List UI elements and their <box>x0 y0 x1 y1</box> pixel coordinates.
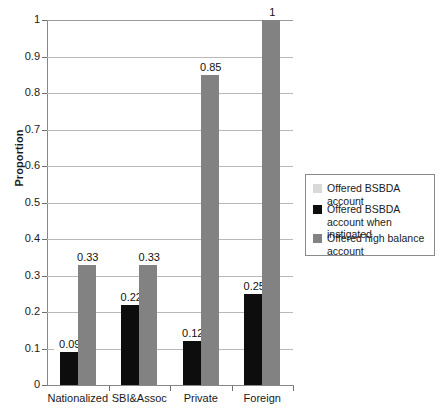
legend-item[interactable]: Offered high balance account <box>313 232 431 257</box>
gridline <box>47 57 293 58</box>
bar-value-label: 0.85 <box>195 61 227 73</box>
bar <box>183 341 201 385</box>
legend-swatch-icon <box>313 234 322 243</box>
bar-value-label: 0.33 <box>133 251 165 263</box>
x-axis-category-label: Private <box>170 392 232 405</box>
legend: Offered BSBDA accountOffered BSBDA accou… <box>305 174 435 256</box>
gridline <box>47 166 293 167</box>
bar <box>139 265 157 385</box>
y-axis-tick-label: 0.4 <box>6 233 40 244</box>
y-axis-tick-label: 0.1 <box>6 343 40 354</box>
bar-value-label: 1 <box>256 6 288 18</box>
y-axis-tick-label: 0.8 <box>6 87 40 98</box>
y-axis-tick-label: 0.9 <box>6 51 40 62</box>
plot-area: 0.090.330.220.330.120.850.251 <box>47 20 293 385</box>
y-axis-tick-label: 0.2 <box>6 306 40 317</box>
y-axis-tick-label: 0.7 <box>6 124 40 135</box>
gridline <box>47 130 293 131</box>
bar-chart: Proportion 00.10.20.30.40.50.60.70.80.91… <box>0 0 446 418</box>
x-axis-tick <box>109 386 110 391</box>
y-axis-tick-label: 0.5 <box>6 197 40 208</box>
x-axis-category-label: Nationalized <box>47 392 109 405</box>
legend-swatch-icon <box>313 184 322 193</box>
y-axis-tick-label: 1 <box>6 14 40 25</box>
x-axis-tick <box>170 386 171 391</box>
bar <box>60 352 78 385</box>
gridline <box>47 93 293 94</box>
legend-swatch-icon <box>313 205 322 214</box>
bar <box>244 294 262 385</box>
x-axis-tick <box>232 386 233 391</box>
gridline <box>47 20 293 21</box>
gridline <box>47 203 293 204</box>
bar <box>201 75 219 385</box>
x-axis-category-label: SBI&Assoc <box>109 392 171 405</box>
x-axis-category-label: Foreign <box>232 392 294 405</box>
legend-label: Offered high balance account <box>327 232 431 257</box>
y-axis-tick-label: 0.6 <box>6 160 40 171</box>
y-axis-tick-label: 0.3 <box>6 270 40 281</box>
bar-value-label: 0.33 <box>72 251 104 263</box>
x-axis-tick <box>293 386 294 391</box>
bar <box>262 20 280 385</box>
y-axis-tick-label: 0 <box>6 379 40 390</box>
gridline <box>47 239 293 240</box>
bar <box>121 305 139 385</box>
bar <box>78 265 96 385</box>
